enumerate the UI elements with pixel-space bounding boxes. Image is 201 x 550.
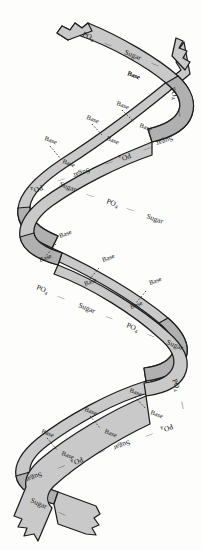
base-label: Base (139, 121, 154, 132)
base-label: Base (127, 69, 142, 80)
backbone-dash: — (144, 430, 156, 442)
base-label: Base (116, 99, 131, 110)
phosphate-subscript: 4 (114, 204, 119, 211)
phosphate-label: PO4 (125, 321, 140, 335)
phosphate-label: PO4 (105, 196, 120, 210)
base-label: Base (101, 252, 116, 263)
base-label: Base (106, 134, 121, 145)
end-top-right-torn (172, 38, 190, 70)
sugar-label: Sugar (145, 211, 165, 226)
base-label: Base (44, 134, 59, 145)
backbone-dash: — (55, 291, 67, 303)
phosphate-subscript: 4 (134, 328, 139, 335)
helix-canvas: BaseBaseBaseBaseBaseBaseBaseBaseBaseBase… (0, 0, 201, 550)
backbone-dash: — (103, 311, 115, 323)
base-label: Base (86, 113, 101, 124)
backbone-dash: — (145, 329, 157, 341)
phosphate-subscript: 4 (159, 425, 164, 432)
phosphate-label: PO4 (159, 421, 174, 435)
phosphate-subscript: 4 (44, 290, 49, 297)
base-label: Base (58, 228, 73, 239)
backbone-dash: — (84, 189, 96, 201)
strand-a-turn-right-upper (148, 76, 193, 142)
base-label: Base (150, 408, 165, 419)
dna-helix-figure: BaseBaseBaseBaseBaseBaseBaseBaseBaseBase… (0, 0, 201, 550)
base-label: Base (148, 275, 163, 286)
backbone-dash: — (178, 400, 189, 411)
bp-connector (50, 146, 60, 158)
phosphate-label: PO4 (35, 283, 50, 297)
sugar-label: Sugar (77, 301, 97, 316)
phosphate-subscript: 4 (170, 96, 177, 101)
backbone-dash: — (124, 203, 136, 215)
phosphate-subscript: 4 (172, 388, 179, 393)
